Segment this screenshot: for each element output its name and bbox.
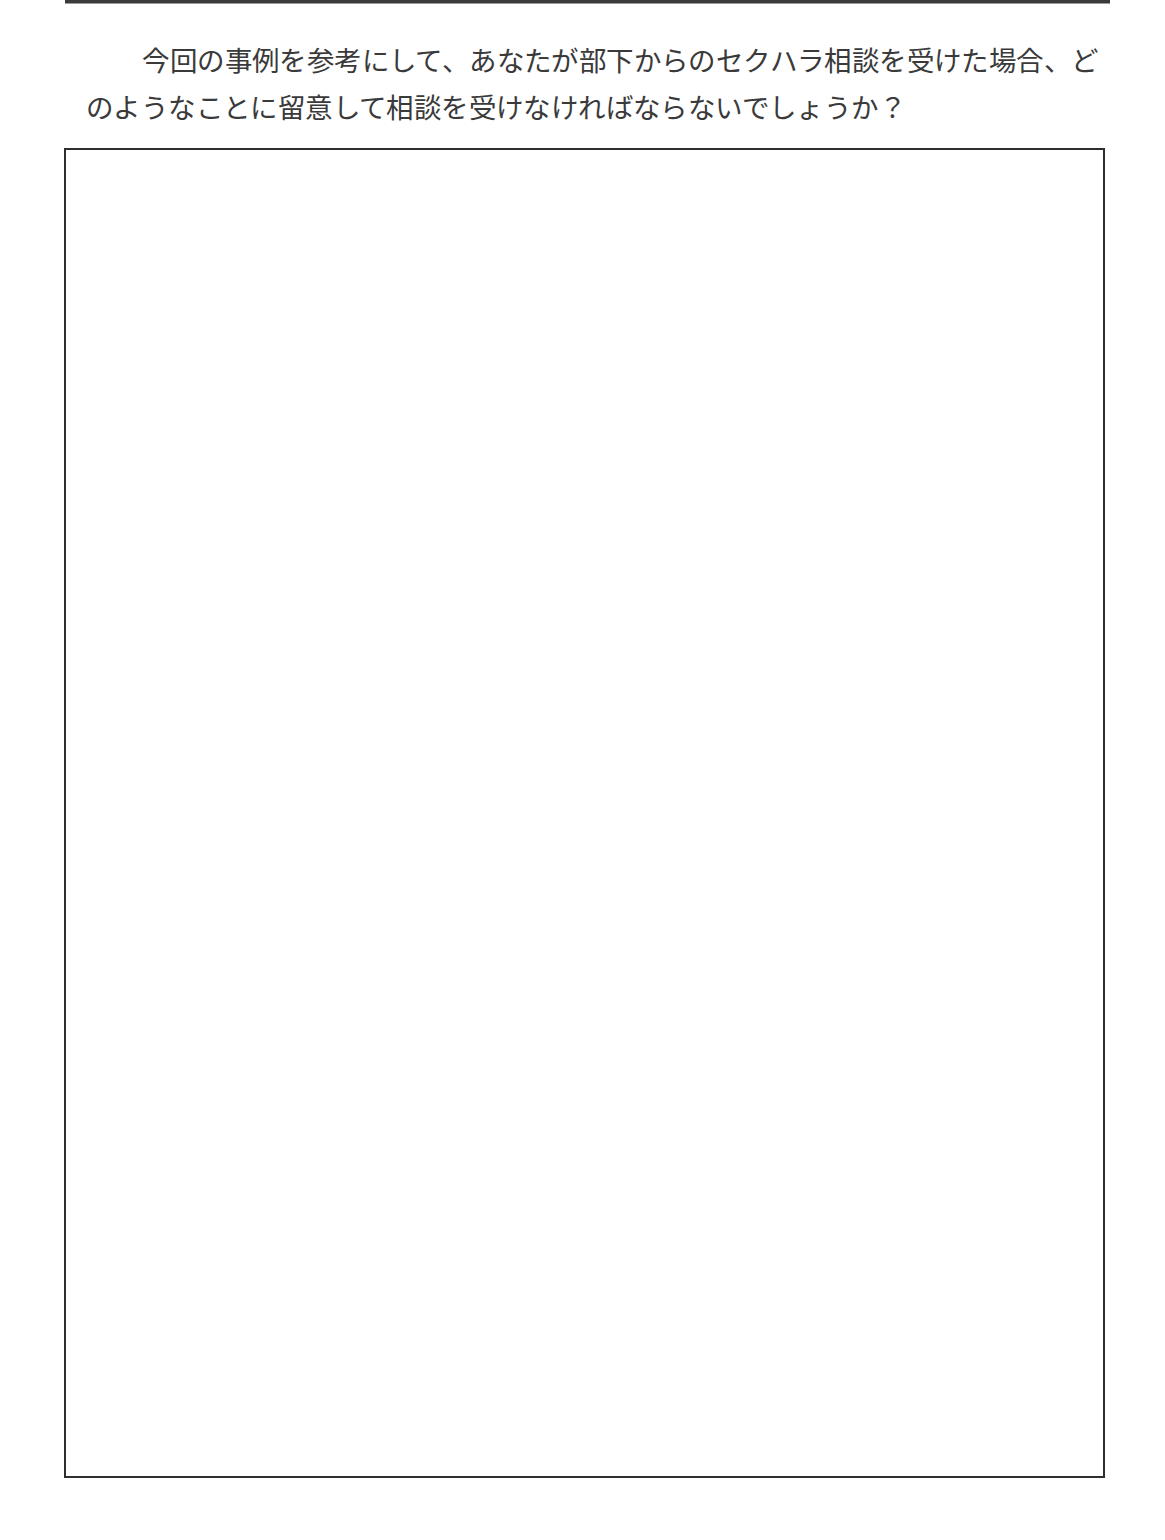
answer-box[interactable] [64, 148, 1105, 1478]
header-divider-rule [65, 0, 1110, 4]
page-footer-blank [0, 1478, 1165, 1540]
question-prompt-line-2: のようなことに留意して相談を受けなければならないでしょうか？ [86, 85, 1121, 132]
document-page: 今回の事例を参考にして、あなたが部下からのセクハラ相談を受けた場合、ど のような… [0, 0, 1165, 1540]
question-prompt-line-1: 今回の事例を参考にして、あなたが部下からのセクハラ相談を受けた場合、ど [86, 38, 1121, 85]
question-prompt: 今回の事例を参考にして、あなたが部下からのセクハラ相談を受けた場合、ど のような… [86, 38, 1121, 132]
answer-input[interactable] [66, 150, 1103, 1476]
